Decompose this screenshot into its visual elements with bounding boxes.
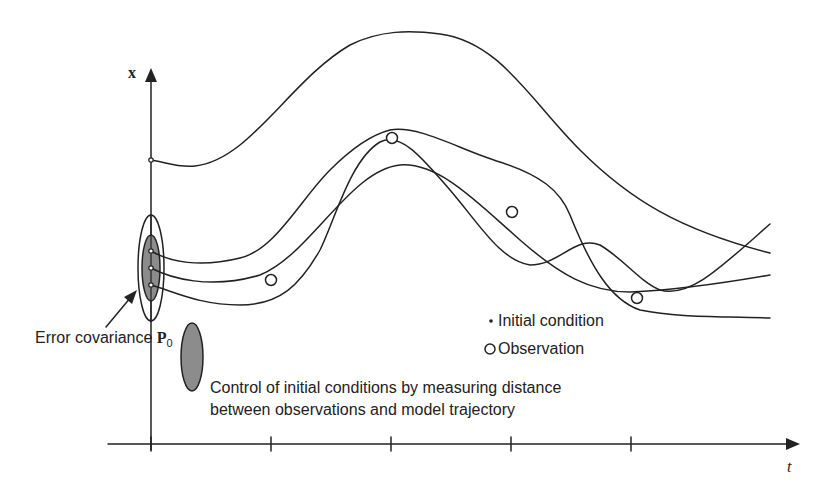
initial-condition-marker bbox=[149, 283, 153, 287]
x-axis-label: t bbox=[787, 458, 791, 476]
control-description-line-1: Control of initial conditions by measuri… bbox=[210, 377, 561, 399]
initial-condition-marker bbox=[149, 249, 153, 253]
y-axis-arrow-icon bbox=[145, 68, 157, 82]
trajectory-3 bbox=[151, 140, 770, 305]
observations bbox=[266, 133, 643, 304]
trajectory-2 bbox=[151, 165, 770, 292]
error-covariance-label: Error covariance P0 bbox=[35, 329, 173, 349]
initial-condition-marker bbox=[149, 266, 153, 270]
trajectory-top bbox=[151, 32, 770, 253]
observation-marker bbox=[507, 207, 518, 218]
y-axis-label: x bbox=[128, 64, 136, 82]
x-axis-arrow-icon bbox=[786, 438, 800, 450]
observation-marker bbox=[387, 133, 398, 144]
observation-marker bbox=[266, 275, 277, 286]
trajectory-1 bbox=[151, 129, 770, 318]
legend-observation: Observation bbox=[467, 340, 584, 358]
observation-marker bbox=[632, 293, 643, 304]
control-ellipse-icon bbox=[181, 323, 203, 391]
legend-initial-condition: Initial condition bbox=[474, 312, 604, 330]
control-description: Control of initial conditions by measuri… bbox=[210, 377, 561, 421]
control-description-line-2: between observations and model trajector… bbox=[210, 399, 561, 421]
initial-condition-marker bbox=[149, 158, 153, 162]
covariance-pointer bbox=[106, 297, 131, 327]
